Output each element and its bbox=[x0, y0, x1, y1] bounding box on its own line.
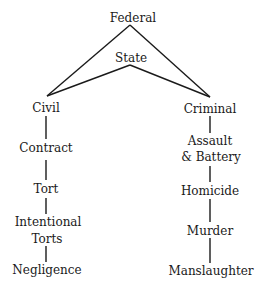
contract-node: Contract bbox=[19, 141, 72, 156]
state-to-criminal-line bbox=[130, 65, 210, 97]
state-node: State bbox=[115, 51, 147, 66]
assault-battery-node-line2: & Battery bbox=[181, 150, 241, 165]
intentional-torts-node-line1: Intentional bbox=[15, 215, 82, 230]
state-to-civil-line bbox=[47, 65, 130, 96]
tort-node: Tort bbox=[34, 182, 59, 197]
federal-node: Federal bbox=[110, 11, 156, 26]
assault-battery-node-line1: Assault bbox=[188, 134, 233, 149]
murder-node: Murder bbox=[187, 224, 233, 239]
manslaughter-node: Manslaughter bbox=[168, 264, 253, 279]
civil-node: Civil bbox=[32, 101, 59, 116]
legal-hierarchy-diagram: Federal State Civil Contract Tort Intent… bbox=[0, 0, 261, 294]
negligence-node: Negligence bbox=[12, 263, 81, 278]
criminal-node: Criminal bbox=[184, 102, 237, 117]
homicide-node: Homicide bbox=[181, 184, 239, 199]
intentional-torts-node-line2: Torts bbox=[31, 232, 62, 247]
